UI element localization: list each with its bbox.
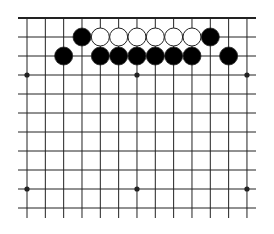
black-stone[interactable] [201, 28, 219, 46]
black-stone[interactable] [146, 47, 164, 65]
black-stone[interactable] [183, 47, 201, 65]
star-point-icon [24, 72, 29, 77]
black-stone[interactable] [91, 47, 109, 65]
go-board[interactable] [0, 0, 274, 234]
white-stone[interactable] [110, 28, 128, 46]
star-point-icon [244, 186, 249, 191]
star-point-icon [134, 72, 139, 77]
white-stone[interactable] [146, 28, 164, 46]
white-stone[interactable] [165, 28, 183, 46]
black-stone[interactable] [220, 47, 238, 65]
white-stone[interactable] [91, 28, 109, 46]
black-stone[interactable] [55, 47, 73, 65]
star-point-icon [244, 72, 249, 77]
star-point-icon [134, 186, 139, 191]
black-stone[interactable] [165, 47, 183, 65]
white-stone[interactable] [128, 28, 146, 46]
black-stone[interactable] [110, 47, 128, 65]
black-stone[interactable] [73, 28, 91, 46]
white-stone[interactable] [183, 28, 201, 46]
black-stone[interactable] [128, 47, 146, 65]
star-point-icon [24, 186, 29, 191]
